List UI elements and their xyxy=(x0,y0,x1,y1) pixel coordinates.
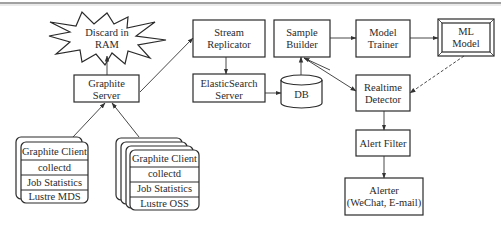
oss-row-collectd: collectd xyxy=(148,168,182,179)
discard-in-ram-node: Discard in RAM xyxy=(49,12,166,65)
model-trainer-node: Model Trainer xyxy=(356,20,410,57)
graphite-server-node: Graphite Server xyxy=(74,75,139,102)
oss-row-lustre-oss: Lustre OSS xyxy=(140,198,189,209)
stream-replicator-label-line2: Replicator xyxy=(207,39,251,50)
alerter-label-line2: (WeChat, E-mail) xyxy=(347,197,422,209)
elasticsearch-server-node: ElasticSearch Server xyxy=(193,74,265,102)
oss-row-graphite-client: Graphite Client xyxy=(132,153,197,164)
realtime-detector-node: Realtime Detector xyxy=(356,75,410,111)
model-trainer-label-line2: Trainer xyxy=(368,39,399,50)
mds-row-collectd: collectd xyxy=(38,162,72,173)
edge-realtime-detector-to-sample-builder xyxy=(304,58,330,70)
ml-model-label-line1: ML xyxy=(458,26,474,37)
stream-replicator-node: Stream Replicator xyxy=(193,20,265,57)
sample-builder-label-line2: Builder xyxy=(286,39,318,50)
elasticsearch-server-label-line2: Server xyxy=(215,90,243,101)
graphite-server-label-line2: Server xyxy=(93,90,121,101)
discard-label-line1: Discard in xyxy=(85,27,129,38)
realtime-detector-label-line1: Realtime xyxy=(364,82,402,93)
alert-filter-label: Alert Filter xyxy=(360,138,407,149)
edge-graphite-server-to-stream-replicator xyxy=(140,38,193,92)
elasticsearch-server-label-line1: ElasticSearch xyxy=(200,78,258,89)
discard-label-line2: RAM xyxy=(95,39,120,50)
model-trainer-label-line1: Model xyxy=(369,27,396,38)
ml-model-label-line2: Model xyxy=(452,38,479,49)
architecture-diagram: Discard in RAM Graphite Server Stream Re… xyxy=(0,0,501,226)
header-rule xyxy=(0,3,501,5)
ml-model-node: ML Model xyxy=(438,19,494,56)
lustre-oss-client-stack: Graphite Client collectd Job Statistics … xyxy=(116,138,199,210)
oss-row-job-statistics: Job Statistics xyxy=(137,183,192,194)
stream-replicator-label-line1: Stream xyxy=(214,27,244,38)
db-label: DB xyxy=(294,89,309,100)
sample-builder-node: Sample Builder xyxy=(274,20,330,57)
mds-row-lustre-mds: Lustre MDS xyxy=(28,191,80,202)
edge-mds-to-graphite-server xyxy=(73,103,105,137)
graphite-server-label-line1: Graphite xyxy=(88,78,125,89)
alert-filter-node: Alert Filter xyxy=(356,130,410,156)
mds-row-graphite-client: Graphite Client xyxy=(22,146,87,157)
alerter-node: Alerter (WeChat, E-mail) xyxy=(345,178,423,215)
lustre-mds-client-stack: Graphite Client collectd Job Statistics … xyxy=(16,137,88,203)
alerter-label-line1: Alerter xyxy=(369,185,399,196)
db-node: DB xyxy=(281,75,322,108)
edge-oss-to-graphite-server xyxy=(112,103,139,137)
mds-row-job-statistics: Job Statistics xyxy=(27,177,82,188)
sample-builder-label-line1: Sample xyxy=(286,27,318,38)
realtime-detector-label-line2: Detector xyxy=(365,94,402,105)
edge-ml-model-to-realtime-detector xyxy=(410,56,464,93)
